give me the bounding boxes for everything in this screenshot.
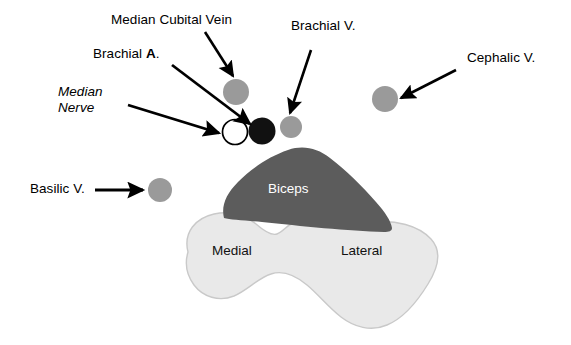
arrow-cephalic-vein xyxy=(401,70,456,98)
label-cephalic-vein: Cephalic V. xyxy=(467,50,535,66)
label-median-nerve-line2: Nerve xyxy=(58,100,103,116)
label-brachial-artery-bold: A xyxy=(146,46,156,61)
label-lateral: Lateral xyxy=(341,243,382,258)
label-basilic-vein: Basilic V. xyxy=(30,181,85,197)
cephalic-vein-vessel xyxy=(372,86,398,112)
basilic-vein-vessel xyxy=(148,178,172,202)
label-median-nerve: Median Nerve xyxy=(58,84,103,117)
median-cubital-vein-vessel xyxy=(223,79,249,105)
median-nerve-vessel xyxy=(223,120,248,145)
label-brachial-artery-suffix: . xyxy=(156,46,160,61)
arrow-median-nerve xyxy=(128,105,219,133)
label-brachial-vein: Brachial V. xyxy=(291,18,356,34)
brachial-artery-vessel xyxy=(249,118,276,145)
arrow-median-cubital-vein xyxy=(205,32,233,76)
label-brachial-artery-prefix: Brachial xyxy=(93,46,146,61)
label-medial: Medial xyxy=(212,243,252,258)
label-brachial-artery: Brachial A. xyxy=(93,46,160,62)
brachial-vein-vessel xyxy=(280,116,302,138)
forearm-muscle-shape xyxy=(186,213,437,329)
arrow-brachial-vein xyxy=(290,50,311,113)
label-median-nerve-line1: Median xyxy=(58,84,103,100)
label-median-cubital-vein: Median Cubital Vein xyxy=(111,12,232,28)
label-biceps: Biceps xyxy=(268,181,309,196)
anatomy-diagram: Median Cubital Vein Brachial A. Median N… xyxy=(0,0,571,345)
